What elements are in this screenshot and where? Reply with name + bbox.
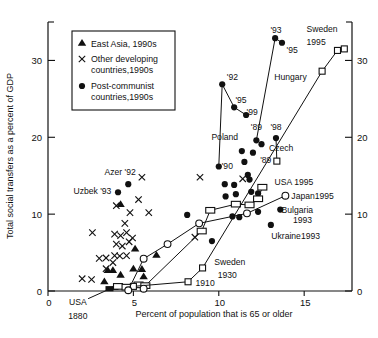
annotation-poland: Poland <box>211 132 238 142</box>
annotation-czech: Czech <box>269 143 294 153</box>
annotation-usa: USA <box>69 297 87 307</box>
annotation-sweden: Sweden <box>214 257 245 267</box>
legend-label-post-communist: countries,1990s <box>91 92 154 102</box>
x-tick-label: 15 <box>300 297 311 308</box>
annotation-usa-1995: USA 1995 <box>275 177 314 187</box>
annotation-1910: 1910 <box>196 278 215 288</box>
annotation-95: '95 <box>287 45 298 55</box>
annotation-sweden: Sweden <box>307 24 338 34</box>
annotation-ukraine1993: Ukraine1993 <box>271 231 320 241</box>
annotation-99: '99 <box>246 107 257 117</box>
annotation-1993: 1993 <box>293 215 312 225</box>
annotation-90: '90 <box>222 161 233 171</box>
annotation-89: '89 <box>260 155 271 165</box>
y-tick-label-right: 20 <box>357 132 368 143</box>
series-japan-extra-point <box>140 285 147 292</box>
x-tick-label: 10 <box>214 297 225 308</box>
annotation-uzbek-93: Uzbek '93 <box>73 186 111 196</box>
legend-label-east-asia-1990s: East Asia, 1990s <box>91 39 157 49</box>
annotation-hungary: Hungary <box>274 72 307 82</box>
axes: 00101020203030051015Percent of populatio… <box>5 22 368 319</box>
x-tick-label: 5 <box>132 297 137 308</box>
legend: East Asia, 1990sOther developingcountrie… <box>72 31 175 110</box>
y-tick-label-left: 20 <box>31 132 42 143</box>
x-axis-title: Percent of population that is 65 or olde… <box>135 309 292 319</box>
annotation-1995: 1995 <box>307 37 326 47</box>
y-tick-label-right: 10 <box>357 209 368 220</box>
legend-label-other-developing: Other developing <box>91 54 158 64</box>
figure: 00101020203030051015Percent of populatio… <box>0 0 378 338</box>
y-tick-label-left: 10 <box>31 209 42 220</box>
annotation-azer-92: Azer '92 <box>104 167 135 177</box>
scatter-plot: 00101020203030051015Percent of populatio… <box>0 0 378 338</box>
legend-label-other-developing: countries,1990s <box>91 65 154 75</box>
annotation-95: '95 <box>235 95 246 105</box>
annotation-bulgaria: Bulgaria <box>282 205 314 215</box>
y-tick-label-right: 30 <box>357 55 368 66</box>
legend-label-post-communist: Post-communist <box>91 81 155 91</box>
annotation-1880: 1880 <box>68 311 87 321</box>
series-usa-series <box>105 184 266 291</box>
y-tick-label-right: 0 <box>357 286 362 297</box>
y-tick-label-left: 30 <box>31 55 42 66</box>
annotation-japan1995: Japan1995 <box>291 191 334 201</box>
y-axis-title: Total social transfers as a percent of G… <box>5 73 15 239</box>
x-tick-label: 0 <box>46 297 51 308</box>
annotation-89: '89 <box>251 122 262 132</box>
annotation-93: '93 <box>270 25 281 35</box>
annotation-92: '92 <box>227 72 238 82</box>
annotation-1930: 1930 <box>218 270 237 280</box>
annotation-98: '98 <box>270 122 281 132</box>
y-tick-label-left: 0 <box>37 286 42 297</box>
